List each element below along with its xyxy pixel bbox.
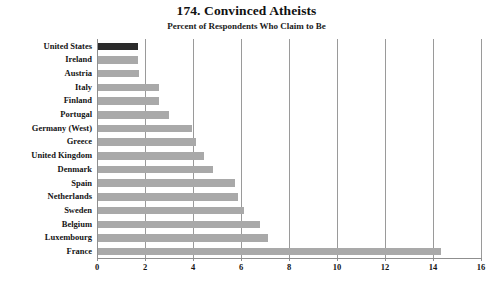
bar-sweden[interactable] <box>98 207 244 215</box>
category-label-italy: Italy <box>0 82 92 92</box>
bar-row[interactable] <box>98 80 482 95</box>
tick-mark-4 <box>193 258 194 261</box>
bar-netherlands[interactable] <box>98 193 238 201</box>
tick-mark-0 <box>97 258 98 261</box>
bar-row[interactable] <box>98 244 482 259</box>
bar-row[interactable] <box>98 149 482 164</box>
bar-finland[interactable] <box>98 97 159 105</box>
category-label-germany-west: Germany (West) <box>0 123 92 133</box>
chart-container: 174. Convinced Atheists Percent of Respo… <box>0 0 493 288</box>
x-tick-label-2: 2 <box>130 262 160 273</box>
x-tick-label-6: 6 <box>226 262 256 273</box>
x-tick-label-8: 8 <box>274 262 304 273</box>
bar-row[interactable] <box>98 107 482 122</box>
category-label-sweden: Sweden <box>0 205 92 215</box>
tick-mark-8 <box>289 258 290 261</box>
category-label-france: France <box>0 246 92 256</box>
bar-row[interactable] <box>98 66 482 81</box>
bar-series <box>98 39 482 258</box>
title-block: 174. Convinced Atheists Percent of Respo… <box>0 3 493 33</box>
tick-mark-10 <box>337 258 338 261</box>
bar-united-kingdom[interactable] <box>98 152 204 160</box>
category-label-ireland: Ireland <box>0 54 92 64</box>
category-label-denmark: Denmark <box>0 164 92 174</box>
x-tick-label-4: 4 <box>178 262 208 273</box>
bar-spain[interactable] <box>98 179 235 187</box>
category-label-greece: Greece <box>0 136 92 146</box>
x-tick-label-12: 12 <box>370 262 400 273</box>
bar-ireland[interactable] <box>98 56 138 64</box>
category-label-united-kingdom: United Kingdom <box>0 150 92 160</box>
bar-germany-west[interactable] <box>98 125 192 133</box>
bar-italy[interactable] <box>98 84 159 92</box>
bar-row[interactable] <box>98 121 482 136</box>
x-tick-label-10: 10 <box>322 262 352 273</box>
bar-row[interactable] <box>98 203 482 218</box>
plot-area <box>97 39 481 258</box>
bar-france[interactable] <box>98 248 441 256</box>
bar-row[interactable] <box>98 217 482 232</box>
category-label-netherlands: Netherlands <box>0 191 92 201</box>
chart-subtitle: Percent of Respondents Who Claim to Be <box>0 20 493 33</box>
category-label-spain: Spain <box>0 178 92 188</box>
tick-mark-6 <box>241 258 242 261</box>
bar-united-states[interactable] <box>98 43 138 51</box>
bar-row[interactable] <box>98 231 482 246</box>
bar-denmark[interactable] <box>98 166 213 174</box>
bar-row[interactable] <box>98 162 482 177</box>
category-label-finland: Finland <box>0 95 92 105</box>
bar-portugal[interactable] <box>98 111 169 119</box>
category-label-austria: Austria <box>0 68 92 78</box>
bar-row[interactable] <box>98 176 482 191</box>
bar-row[interactable] <box>98 190 482 205</box>
bar-row[interactable] <box>98 94 482 109</box>
bar-row[interactable] <box>98 39 482 54</box>
bar-greece[interactable] <box>98 138 196 146</box>
tick-mark-12 <box>385 258 386 261</box>
x-tick-label-16: 16 <box>466 262 493 273</box>
x-axis-tick-labels: 0246810121416 <box>0 262 493 276</box>
category-label-belgium: Belgium <box>0 219 92 229</box>
bar-row[interactable] <box>98 135 482 150</box>
x-tick-label-0: 0 <box>82 262 112 273</box>
category-label-portugal: Portugal <box>0 109 92 119</box>
category-label-united-states: United States <box>0 41 92 51</box>
tick-mark-14 <box>433 258 434 261</box>
category-axis-labels: United StatesIrelandAustriaItalyFinlandP… <box>0 39 92 258</box>
tick-mark-2 <box>145 258 146 261</box>
tick-mark-16 <box>481 258 482 261</box>
bar-luxembourg[interactable] <box>98 234 268 242</box>
category-label-luxembourg: Luxembourg <box>0 232 92 242</box>
bar-belgium[interactable] <box>98 221 260 229</box>
bar-row[interactable] <box>98 53 482 68</box>
page-title: 174. Convinced Atheists <box>0 3 493 19</box>
bar-austria[interactable] <box>98 70 139 78</box>
x-tick-label-14: 14 <box>418 262 448 273</box>
